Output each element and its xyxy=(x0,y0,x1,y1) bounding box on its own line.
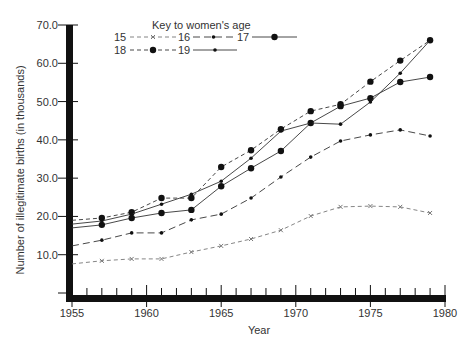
data-point xyxy=(158,210,164,216)
data-point xyxy=(218,164,224,170)
x-tick-label: 1955 xyxy=(60,307,84,319)
legend-title: Key to women's age xyxy=(152,19,251,31)
data-point xyxy=(188,207,194,213)
legend-label-15: 15 xyxy=(114,31,126,43)
x-tick-label: 1965 xyxy=(209,307,233,319)
legend-label-19: 19 xyxy=(178,44,190,56)
x-tick-label: 1980 xyxy=(433,307,457,319)
x-axis-line xyxy=(66,295,446,302)
data-point xyxy=(249,196,253,200)
y-tick-label: 60.0 xyxy=(37,57,58,69)
data-point xyxy=(160,202,164,206)
data-point xyxy=(190,218,194,222)
data-point xyxy=(190,192,194,196)
series-18 xyxy=(72,37,433,221)
legend-marker-17 xyxy=(271,34,277,40)
data-point xyxy=(427,74,433,80)
x-tick-label: 1960 xyxy=(134,307,158,319)
data-point xyxy=(369,100,373,104)
y-axis-line xyxy=(66,25,73,301)
data-point xyxy=(308,108,314,114)
axes: 10.020.030.040.050.060.070.0195519601965… xyxy=(37,19,458,319)
y-tick-label: 40.0 xyxy=(37,134,58,146)
data-point xyxy=(309,155,313,159)
data-point xyxy=(397,79,403,85)
data-point xyxy=(337,101,343,107)
series-group xyxy=(72,37,433,264)
data-point xyxy=(160,231,164,235)
legend-label-18: 18 xyxy=(114,44,126,56)
legend-marker-19 xyxy=(213,48,217,52)
data-point xyxy=(248,165,254,171)
data-point xyxy=(130,231,134,235)
data-point xyxy=(158,195,164,201)
data-point xyxy=(100,219,104,223)
y-tick-label: 30.0 xyxy=(37,172,58,184)
line-chart: 10.020.030.040.050.060.070.0195519601965… xyxy=(0,0,463,349)
series-19 xyxy=(72,39,432,225)
legend-marker-18 xyxy=(150,47,156,53)
data-point xyxy=(398,71,402,75)
legend-label-16: 16 xyxy=(178,31,190,43)
data-point xyxy=(398,128,402,132)
data-point xyxy=(309,121,313,125)
data-point xyxy=(278,148,284,154)
data-point xyxy=(428,39,432,43)
data-point xyxy=(219,179,223,183)
legend: Key to women's age1516171819 xyxy=(114,19,297,56)
data-point xyxy=(367,78,373,84)
data-point xyxy=(339,122,343,126)
data-point xyxy=(219,212,223,216)
data-point xyxy=(130,212,134,216)
series-16 xyxy=(72,128,432,246)
data-point xyxy=(248,147,254,153)
data-point xyxy=(339,205,343,209)
y-tick-label: 70.0 xyxy=(37,19,58,31)
x-axis-title: Year xyxy=(248,324,271,336)
y-tick-label: 20.0 xyxy=(37,210,58,222)
data-point xyxy=(249,156,253,160)
x-tick-label: 1970 xyxy=(284,307,308,319)
data-point xyxy=(309,214,313,218)
y-tick-label: 10.0 xyxy=(37,249,58,261)
data-point xyxy=(218,183,224,189)
data-point xyxy=(428,134,432,138)
data-point xyxy=(369,133,373,137)
data-point xyxy=(100,238,104,242)
series-line-18 xyxy=(72,40,430,220)
series-line-15 xyxy=(72,206,430,264)
x-tick-label: 1975 xyxy=(358,307,382,319)
data-point xyxy=(279,129,283,133)
y-tick-label: 50.0 xyxy=(37,96,58,108)
legend-marker-16 xyxy=(212,35,216,39)
data-point xyxy=(339,139,343,143)
data-point xyxy=(279,175,283,179)
legend-label-17: 17 xyxy=(237,31,249,43)
data-point xyxy=(397,57,403,63)
y-axis-title: Number of illegitimate births (in thousa… xyxy=(14,65,26,274)
